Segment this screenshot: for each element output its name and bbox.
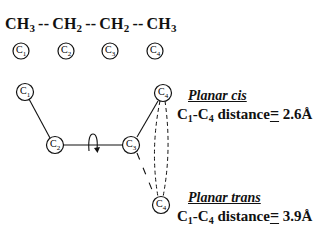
planar-cis-value: 2.6 — [283, 106, 302, 122]
svg-text:C2: C2 — [61, 44, 72, 58]
bond-c3-c4-trans — [137, 153, 155, 197]
rotation-arrow-icon — [89, 134, 100, 153]
carbon-label-c2: C2 — [58, 43, 74, 59]
carbon-label-c1: C1 — [13, 43, 29, 59]
atom-c4-trans: C4 — [153, 197, 170, 214]
planar-trans-distance: C1-C4 distance= 3.9Å — [177, 207, 312, 225]
bond-c3-c4-cis — [137, 101, 158, 137]
planar-trans-title: Planar trans — [188, 190, 312, 206]
planar-cis-title: Planar cis — [188, 88, 312, 104]
bond-c1-c2 — [29, 99, 50, 138]
rotation-path-right — [163, 101, 168, 197]
angstrom-unit: Å — [302, 208, 313, 224]
atom-c3: C3 — [123, 137, 140, 154]
carbon-label-c4: C4 — [147, 43, 163, 59]
planar-cis-distance: C1-C4 distance= 2.6Å — [177, 105, 312, 123]
atom-c2: C2 — [47, 137, 64, 154]
atom-c4-cis: C4 — [155, 85, 172, 102]
angstrom-unit: Å — [302, 106, 313, 122]
svg-text:C4: C4 — [150, 44, 161, 58]
planar-trans-value: 3.9 — [283, 208, 302, 224]
svg-text:C1: C1 — [16, 44, 27, 58]
carbon-label-c3: C3 — [102, 43, 118, 59]
planar-trans-label: Planar trans C1-C4 distance= 3.9Å — [177, 190, 312, 225]
rotation-path-left — [154, 101, 160, 197]
svg-text:C3: C3 — [105, 44, 116, 58]
atom-c1: C1 — [17, 84, 34, 101]
planar-cis-label: Planar cis C1-C4 distance= 2.6Å — [177, 88, 312, 123]
